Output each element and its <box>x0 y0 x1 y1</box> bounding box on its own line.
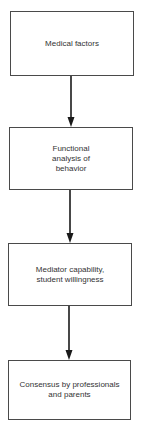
node-medical-factors: Medical factors <box>10 11 134 76</box>
node-label: Medical factors <box>41 39 103 49</box>
arrow-mediator-to-consensus <box>66 306 73 360</box>
node-consensus: Consensus by professionals and parents <box>8 360 131 420</box>
node-functional-analysis: Functional analysis of behavior <box>9 127 133 190</box>
node-label: Consensus by professionals and parents <box>15 380 123 400</box>
node-mediator-capability: Mediator capability, student willingness <box>8 243 132 306</box>
arrow-functional-to-mediator <box>67 190 74 243</box>
node-label: Functional analysis of behavior <box>48 144 94 174</box>
arrow-medical-to-functional <box>68 76 75 127</box>
node-label: Mediator capability, student willingness <box>32 265 108 285</box>
